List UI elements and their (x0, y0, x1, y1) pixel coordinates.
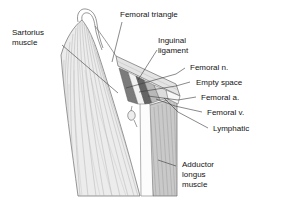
label-empty-space: Empty space (196, 78, 242, 88)
leader-femoral-triangle (112, 22, 122, 62)
label-inguinal-ligament: Inguinal ligament (158, 36, 188, 56)
label-adductor-longus-muscle: Adductor longus muscle (182, 160, 214, 190)
label-sartorius-muscle: Sartorius muscle (12, 28, 44, 48)
label-femoral-vein: Femoral v. (207, 108, 244, 118)
label-femoral-artery: Femoral a. (201, 93, 239, 103)
label-femoral-nerve: Femoral n. (190, 63, 228, 73)
femoral-triangle-figure: Sartorius muscle Femoral triangle Inguin… (0, 0, 287, 212)
label-lymphatic: Lymphatic (213, 124, 249, 134)
label-femoral-triangle: Femoral triangle (120, 10, 178, 20)
lymph-node-shape (128, 111, 135, 121)
